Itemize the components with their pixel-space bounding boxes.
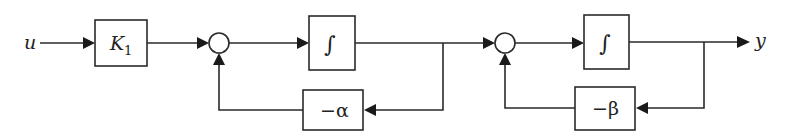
connector-integrator2-to-feedback2 [636,42,704,114]
integral-icon: ∫ [324,32,336,57]
input-label-u: u [24,31,36,53]
integrator-block-1: ∫ [309,16,355,70]
summing-junction-1 [209,33,229,53]
connector-feedback2-to-sum2 [499,53,575,108]
arrow-head-icon [297,37,309,49]
feedback-block-beta: −β [575,87,635,130]
arrow-head-icon [737,36,750,48]
connector-sum2-to-integrator2 [515,37,584,49]
arrow-head-icon [572,37,584,49]
arrow-head-icon [499,53,511,65]
feedback-alpha-label: −α [320,99,349,121]
connector-feedback1-to-sum1 [213,53,303,110]
output-label-y: y [754,29,766,51]
arrow-head-icon [636,102,648,114]
arrow-head-icon [483,37,495,49]
feedback-block-alpha: −α [303,90,363,130]
arrow-head-icon [364,104,376,116]
gain-subscript: 1 [124,43,132,58]
arrow-head-icon [213,53,225,65]
connector-integrator1-to-feedback1 [364,43,443,116]
arrow-head-icon [83,37,95,49]
connector-sum1-to-integrator1 [229,37,309,49]
integrator-block-2: ∫ [584,15,629,69]
feedback-beta-label: −β [592,97,619,119]
arrow-head-icon [197,37,209,49]
integral-icon: ∫ [599,31,611,56]
connector-integrator1-to-sum2 [355,37,495,49]
connector-integrator2-to-output [629,36,750,48]
connector-gain-to-sum1 [147,37,209,49]
summing-junction-2 [495,33,515,53]
connector-u-to-gain [40,37,95,49]
gain-block-k1: K 1 [95,20,147,66]
block-diagram: u K 1 ∫ −α [0,0,792,135]
